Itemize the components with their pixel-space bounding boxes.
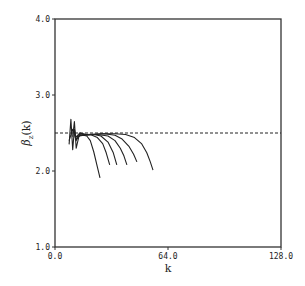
y-axis-label: βz(k) (20, 120, 35, 146)
x-tick-label: 128.0 (269, 252, 293, 261)
data-series (69, 119, 153, 178)
x-axis-label: k (165, 262, 172, 275)
series-line (76, 134, 153, 170)
chart: 1.02.03.04.00.064.0128.0 k βz(k) (0, 0, 305, 286)
series-line (73, 122, 117, 165)
x-tick-label: 0.0 (48, 252, 63, 261)
y-label-main: β (20, 139, 33, 146)
x-tick-label: 64.0 (158, 252, 177, 261)
y-tick-label: 3.0 (36, 91, 51, 100)
series-line (76, 134, 137, 162)
y-tick-label: 2.0 (36, 167, 51, 176)
svg-text:βz(k): βz(k) (20, 120, 35, 146)
y-tick-label: 4.0 (36, 15, 51, 24)
y-tick-label: 1.0 (36, 243, 51, 252)
y-label-tail: (k) (20, 120, 33, 135)
